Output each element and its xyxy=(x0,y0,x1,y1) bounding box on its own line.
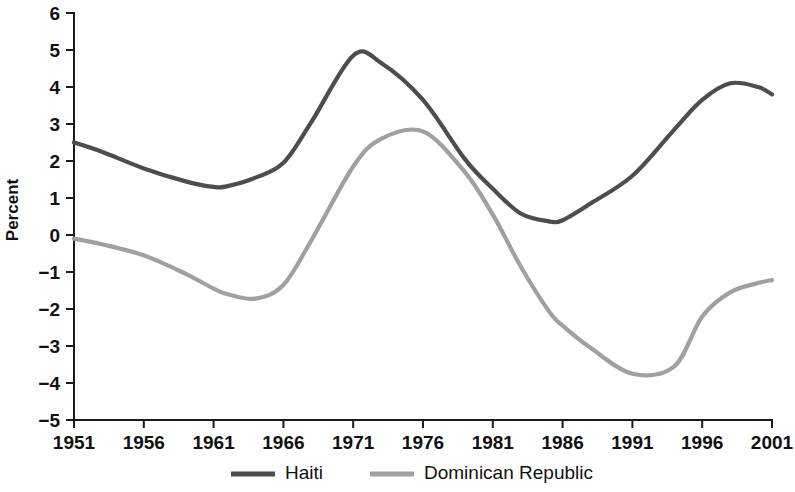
x-axis: 1951195619611966197119761981198619911996… xyxy=(53,420,794,453)
line-chart: 6543210−1−2−3−4−5 1951195619611966197119… xyxy=(0,0,795,492)
y-tick-label: −1 xyxy=(38,262,60,283)
y-tick-label: 0 xyxy=(49,225,60,246)
x-tick-label: 1951 xyxy=(53,432,96,453)
y-tick-label: 1 xyxy=(49,188,60,209)
y-tick-label: −2 xyxy=(38,299,60,320)
x-tick-label: 1981 xyxy=(472,432,515,453)
x-tick-label: 1996 xyxy=(681,432,723,453)
x-tick-label: 1956 xyxy=(123,432,165,453)
x-tick-label: 2001 xyxy=(751,432,794,453)
x-tick-label: 1976 xyxy=(402,432,444,453)
y-tick-label: 4 xyxy=(49,77,60,98)
y-tick-label: −3 xyxy=(38,336,60,357)
chart-figure: 6543210−1−2−3−4−5 1951195619611966197119… xyxy=(0,0,795,492)
y-axis-title: Percent xyxy=(3,178,22,241)
x-tick-label: 1961 xyxy=(192,432,235,453)
series-line-haiti xyxy=(74,51,772,222)
y-tick-label: 3 xyxy=(49,114,60,135)
series-lines xyxy=(74,51,772,375)
series-line-dominican-republic xyxy=(74,129,772,375)
legend-label-dominican-republic: Dominican Republic xyxy=(424,462,593,483)
y-tick-label: 5 xyxy=(49,40,60,61)
y-tick-label: −5 xyxy=(38,410,60,431)
y-tick-label: 6 xyxy=(49,3,60,24)
x-tick-label: 1966 xyxy=(262,432,304,453)
y-axis: 6543210−1−2−3−4−5 xyxy=(38,3,74,431)
legend-label-haiti: Haiti xyxy=(285,462,323,483)
x-tick-label: 1986 xyxy=(541,432,583,453)
y-tick-label: 2 xyxy=(49,151,60,172)
x-tick-label: 1971 xyxy=(332,432,375,453)
x-tick-label: 1991 xyxy=(611,432,654,453)
chart-legend: HaitiDominican Republic xyxy=(231,462,593,483)
y-tick-label: −4 xyxy=(38,373,60,394)
